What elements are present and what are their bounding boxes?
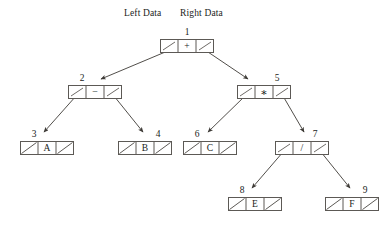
node-9: 9F [325,197,379,211]
edge-1-right-to-5 [205,50,248,79]
node-6: 6C [183,141,237,155]
node-4: 4B [118,141,172,155]
node-9-number: 9 [338,185,392,196]
node-9-data: F [343,197,361,211]
node-1-data: + [178,39,196,53]
edge-7-right-to-9 [321,152,350,188]
node-7: 7/ [275,141,329,155]
edge-2-right-to-4 [114,96,143,132]
edge-1-left-to-2 [101,50,170,79]
node-6-number: 6 [170,129,224,140]
tree-edges [44,50,350,188]
edge-7-left-to-8 [252,152,283,188]
column-header-left-data: Left Data [124,8,161,18]
node-1: 1+ [160,39,214,53]
node-8-number: 8 [215,185,269,196]
node-8-data: E [246,197,264,211]
node-6-data: C [201,141,219,155]
node-1-number: 1 [160,27,214,38]
node-2-data: − [86,85,104,99]
column-header-right-data: Right Data [180,8,223,18]
node-3: 3A [20,141,74,155]
node-4-data: B [136,141,154,155]
node-3-number: 3 [7,129,61,140]
edge-5-left-to-6 [208,96,245,132]
edge-5-right-to-7 [283,96,304,132]
node-7-number: 7 [288,129,342,140]
node-7-data: / [293,141,311,155]
node-2-number: 2 [55,73,109,84]
node-8: 8E [228,197,282,211]
node-3-data: A [38,141,56,155]
expression-tree-diagram: Left DataRight Data 1+2−5∗3A4B6C7/8E9F [0,0,392,230]
node-5: 5∗ [237,85,291,99]
node-5-number: 5 [250,73,304,84]
node-5-data: ∗ [255,85,273,99]
edge-2-left-to-3 [44,96,76,132]
node-2: 2− [68,85,122,99]
